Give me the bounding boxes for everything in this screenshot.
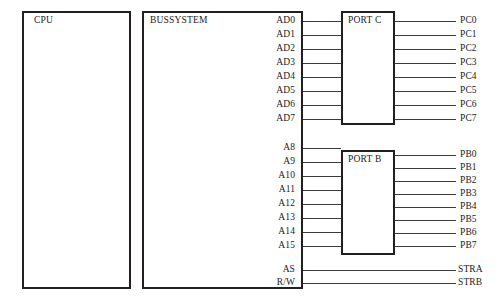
wire-port-b-out-pb6	[395, 233, 456, 234]
bus-pin-label-a14: A14	[235, 226, 295, 236]
bus-pin-label-as: AS	[235, 264, 295, 274]
output-label-pc2: PC2	[460, 43, 477, 53]
bus-pin-label-ad7: AD7	[235, 113, 295, 123]
output-label-pb5: PB5	[460, 214, 477, 224]
output-label-pb2: PB2	[460, 175, 477, 185]
output-label-pc5: PC5	[460, 85, 477, 95]
port-c-block-label: PORT C	[348, 15, 381, 25]
wire-port-b-out-pb5	[395, 220, 456, 221]
wire-bus-to-port-b-a8	[303, 148, 341, 149]
output-label-pb4: PB4	[460, 201, 477, 211]
wire-bus-to-port-c-ad2	[303, 49, 341, 50]
bus-pin-label-rw: R/W	[235, 277, 295, 287]
output-label-pb1: PB1	[460, 162, 477, 172]
output-label-pb3: PB3	[460, 188, 477, 198]
output-label-pc7: PC7	[460, 113, 477, 123]
wire-bus-to-port-b-a14	[303, 232, 341, 233]
wire-port-c-out-pc2	[395, 49, 456, 50]
bus-pin-label-a10: A10	[235, 170, 295, 180]
output-label-stra: STRA	[458, 264, 483, 274]
wire-port-c-out-pc3	[395, 63, 456, 64]
bus-pin-label-ad2: AD2	[235, 43, 295, 53]
wire-bus-to-port-b-a11	[303, 190, 341, 191]
bus-pin-label-ad5: AD5	[235, 85, 295, 95]
wire-bus-to-stra	[303, 270, 456, 271]
wire-port-c-out-pc7	[395, 119, 456, 120]
wire-bus-to-port-b-a15	[303, 246, 341, 247]
wire-port-c-out-pc5	[395, 91, 456, 92]
wire-port-c-out-pc4	[395, 77, 456, 78]
cpu-block-label: CPU	[34, 15, 53, 25]
wire-bus-to-port-c-ad3	[303, 63, 341, 64]
wire-bus-to-port-b-a12	[303, 204, 341, 205]
output-label-pc1: PC1	[460, 29, 477, 39]
output-label-pb7: PB7	[460, 240, 477, 250]
output-label-pc6: PC6	[460, 99, 477, 109]
wire-port-b-out-pb1	[395, 168, 456, 169]
wire-port-b-out-pb2	[395, 181, 456, 182]
output-label-strb: STRB	[458, 277, 482, 287]
wire-bus-to-port-c-ad1	[303, 35, 341, 36]
output-label-pc3: PC3	[460, 57, 477, 67]
wire-bus-to-port-c-ad6	[303, 105, 341, 106]
output-label-pc4: PC4	[460, 71, 477, 81]
wire-bus-to-port-c-ad7	[303, 119, 341, 120]
wire-port-b-out-pb7	[395, 246, 456, 247]
wire-port-b-out-pb4	[395, 207, 456, 208]
bus-pin-label-ad0: AD0	[235, 15, 295, 25]
bus-pin-label-ad6: AD6	[235, 99, 295, 109]
wire-bus-to-port-b-a10	[303, 176, 341, 177]
wire-port-b-out-pb0	[395, 155, 456, 156]
bus-pin-label-a15: A15	[235, 240, 295, 250]
output-label-pc0: PC0	[460, 15, 477, 25]
bus-pin-label-ad1: AD1	[235, 29, 295, 39]
bus-pin-label-a9: A9	[235, 156, 295, 166]
bus-pin-label-a11: A11	[235, 184, 295, 194]
bus-pin-label-a8: A8	[235, 142, 295, 152]
wire-bus-to-port-c-ad4	[303, 77, 341, 78]
bus-pin-label-a12: A12	[235, 198, 295, 208]
wire-bus-to-strb	[303, 283, 456, 284]
wire-port-c-out-pc0	[395, 21, 456, 22]
bus-pin-label-a13: A13	[235, 212, 295, 222]
wire-port-b-out-pb3	[395, 194, 456, 195]
output-label-pb6: PB6	[460, 227, 477, 237]
wire-bus-to-port-c-ad0	[303, 21, 341, 22]
port-b-block	[341, 150, 395, 255]
port-b-block-label: PORT B	[348, 154, 381, 164]
bussystem-block-label: BUSSYSTEM	[150, 15, 208, 25]
wire-bus-to-port-c-ad5	[303, 91, 341, 92]
bus-pin-label-ad4: AD4	[235, 71, 295, 81]
block-diagram: CPU BUSSYSTEM PORT C PORT B AD0 AD1 AD2 …	[0, 0, 498, 305]
wire-port-c-out-pc6	[395, 105, 456, 106]
wire-bus-to-port-b-a13	[303, 218, 341, 219]
bus-pin-label-ad3: AD3	[235, 57, 295, 67]
wire-port-c-out-pc1	[395, 35, 456, 36]
cpu-block	[22, 11, 131, 289]
port-c-block	[341, 11, 395, 125]
wire-bus-to-port-b-a9	[303, 162, 341, 163]
output-label-pb0: PB0	[460, 149, 477, 159]
